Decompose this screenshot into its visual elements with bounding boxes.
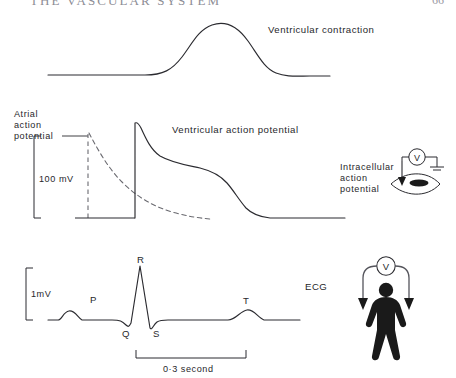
voltage-scale-bar-100mv: 100 mV [34, 136, 74, 218]
atrial-action-potential-decay [89, 133, 210, 219]
ecg-p-wave-label: P [90, 294, 97, 305]
ecg-lead-left-arrow-icon [358, 298, 368, 310]
ventricular-action-potential-label: Ventricular action potential [172, 124, 299, 135]
voltmeter-lead-right [425, 157, 437, 167]
atrial-action-potential-label-line1: Atrial [14, 109, 38, 119]
intracellular-label-line1: Intracellular [340, 162, 394, 172]
ecg-lead-right-arrow-icon [404, 298, 414, 310]
voltage-scale-bar-1mv-label: 1mV [31, 289, 52, 299]
ecg-trace [48, 266, 300, 329]
ventricular-contraction-label: Ventricular contraction [268, 24, 374, 35]
human-figure-icon [366, 283, 406, 360]
cardiac-physiology-figure: Ventricular contraction Atrial action po… [0, 0, 456, 378]
panel-action-potentials: Atrial action potential 100 mV Ventricul… [14, 109, 345, 219]
voltmeter-lead-left [402, 157, 409, 161]
ecg-r-wave-label: R [137, 254, 144, 265]
ecg-recording-schematic: ECG V [305, 257, 414, 360]
time-scale-bar-label: 0·3 second [163, 364, 214, 374]
intracellular-label-line3: potential [340, 184, 379, 194]
ecg-schematic-label: ECG [305, 281, 327, 292]
time-scale-bar: 0·3 second [136, 350, 246, 374]
ecg-lead-right [395, 266, 409, 300]
atrial-action-potential-label-line2: action [14, 120, 42, 130]
ecg-s-wave-label: S [153, 328, 160, 339]
microelectrode-tip-icon [398, 177, 406, 186]
ventricular-action-potential-trace [135, 123, 345, 218]
ecg-q-wave-label: Q [122, 328, 130, 339]
panel-ventricular-contraction: Ventricular contraction [48, 23, 374, 76]
ecg-lead-left [363, 266, 377, 300]
ecg-t-wave-label: T [243, 295, 249, 306]
cell-nucleus [410, 180, 429, 187]
voltmeter-label-intracellular: V [414, 153, 420, 163]
voltage-scale-bar-100mv-label: 100 mV [39, 174, 74, 184]
voltage-scale-bar-1mv: 1mV [26, 268, 52, 320]
panel-ecg: 1mV P Q R S T 0·3 second [26, 254, 300, 374]
voltmeter-label-ecg: V [383, 261, 390, 272]
ground-electrode-icon [430, 167, 444, 170]
intracellular-recording-schematic: Intracellular action potential V [340, 149, 444, 194]
intracellular-label-line2: action [340, 173, 368, 183]
